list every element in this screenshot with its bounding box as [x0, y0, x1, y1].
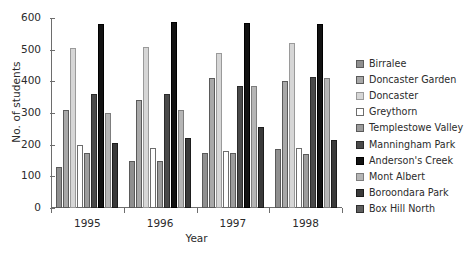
bar: [136, 100, 142, 208]
x-axis-tick: [124, 208, 125, 213]
bar: [56, 167, 62, 208]
bar: [310, 77, 316, 208]
legend-swatch-icon: [356, 157, 364, 165]
chart-legend: BirraleeDoncaster GardenDoncasterGreytho…: [356, 56, 472, 217]
y-tick-label: 300: [21, 106, 41, 118]
legend-item-label: Manningham Park: [369, 140, 455, 150]
legend-swatch-icon: [356, 60, 364, 68]
legend-item[interactable]: Greythorn: [356, 104, 472, 120]
legend-swatch-icon: [356, 76, 364, 84]
x-axis-category-label: 1995: [52, 217, 122, 229]
legend-item-label: Templestowe Valley: [369, 123, 463, 133]
x-axis-category-label: 1996: [125, 217, 195, 229]
y-tick-mark: [50, 176, 55, 177]
legend-item-label: Greythorn: [369, 107, 417, 117]
y-tick-mark: [50, 18, 55, 19]
legend-item-label: Box Hill North: [369, 204, 435, 214]
legend-swatch-icon: [356, 92, 364, 100]
bar: [230, 153, 236, 208]
legend-item[interactable]: Templestowe Valley: [356, 120, 472, 136]
legend-item-label: Doncaster: [369, 91, 418, 101]
bar: [202, 153, 208, 208]
bar: [317, 24, 323, 208]
legend-item[interactable]: Mont Albert: [356, 169, 472, 185]
y-tick-label: 200: [21, 138, 41, 150]
legend-item-label: Anderson's Creek: [369, 156, 453, 166]
legend-item[interactable]: Manningham Park: [356, 136, 472, 152]
y-tick-mark: [50, 81, 55, 82]
bar: [105, 113, 111, 208]
bar: [150, 148, 156, 208]
bar: [157, 161, 163, 209]
legend-swatch-icon: [356, 205, 364, 213]
x-axis-tick: [269, 208, 270, 213]
bar: [77, 145, 83, 208]
legend-swatch-icon: [356, 108, 364, 116]
plot-area: 01002003004005006001995199619971998: [51, 18, 342, 208]
bar: [324, 78, 330, 208]
bar: [282, 81, 288, 208]
bar: [91, 94, 97, 208]
x-axis-tick: [342, 208, 343, 213]
bar: [84, 153, 90, 208]
bar: [216, 53, 222, 208]
y-tick-label: 500: [21, 43, 41, 55]
y-tick-mark: [50, 113, 55, 114]
x-axis-tick: [51, 208, 52, 213]
bar: [164, 94, 170, 208]
legend-item[interactable]: Doncaster Garden: [356, 72, 472, 88]
x-axis-title: Year: [51, 232, 342, 244]
bar: [178, 110, 184, 208]
legend-swatch-icon: [356, 189, 364, 197]
bar: [112, 143, 118, 208]
bar: [258, 127, 264, 208]
bar: [275, 149, 281, 208]
bar: [143, 47, 149, 208]
legend-swatch-icon: [356, 124, 364, 132]
legend-item-label: Birralee: [369, 59, 406, 69]
x-axis-category-label: 1997: [198, 217, 268, 229]
y-tick-mark: [50, 145, 55, 146]
bar: [171, 22, 177, 208]
x-axis-category-label: 1998: [271, 217, 341, 229]
legend-item-label: Doncaster Garden: [369, 75, 456, 85]
y-tick-label: 0: [34, 201, 41, 213]
legend-swatch-icon: [356, 141, 364, 149]
legend-item-label: Mont Albert: [369, 172, 425, 182]
bar: [237, 86, 243, 208]
bar: [289, 43, 295, 208]
legend-item-label: Boroondara Park: [369, 188, 449, 198]
bar: [251, 86, 257, 208]
bar: [129, 161, 135, 209]
legend-item[interactable]: Boroondara Park: [356, 185, 472, 201]
legend-item[interactable]: Anderson's Creek: [356, 153, 472, 169]
bar: [223, 151, 229, 208]
bar: [70, 48, 76, 208]
bar: [185, 138, 191, 208]
bar: [209, 78, 215, 208]
bar: [303, 154, 309, 208]
x-axis-tick: [197, 208, 198, 213]
legend-item[interactable]: Doncaster: [356, 88, 472, 104]
bar: [331, 140, 337, 208]
bar: [296, 148, 302, 208]
bar: [244, 23, 250, 208]
legend-swatch-icon: [356, 173, 364, 181]
y-tick-label: 400: [21, 74, 41, 86]
bar: [98, 24, 104, 208]
y-tick-label: 100: [21, 169, 41, 181]
bar-chart: No. of students 010020030040050060019951…: [0, 0, 473, 255]
bar: [63, 110, 69, 208]
y-tick-label: 600: [21, 11, 41, 23]
legend-item[interactable]: Birralee: [356, 56, 472, 72]
y-tick-mark: [50, 50, 55, 51]
legend-item[interactable]: Box Hill North: [356, 201, 472, 217]
